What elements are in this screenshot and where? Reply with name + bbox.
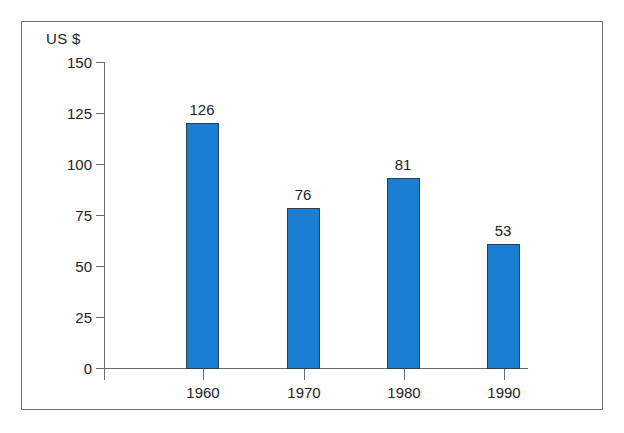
bar-1970[interactable] (287, 208, 320, 369)
x-tick-mark (404, 369, 405, 380)
y-tick-label: 125 (40, 106, 92, 121)
bar-value-label: 126 (167, 102, 237, 118)
bar-value-label: 53 (468, 223, 538, 239)
y-tick-label: 100 (40, 157, 92, 172)
y-axis-title: US $ (46, 30, 81, 47)
x-tick-label: 1970 (269, 385, 339, 401)
x-tick-mark (304, 369, 305, 380)
y-tick-label: 75 (40, 208, 92, 223)
x-tick-mark (203, 369, 204, 380)
bar-1980[interactable] (387, 178, 420, 369)
bar-value-label: 81 (368, 157, 438, 173)
y-tick-label: 0 (40, 361, 92, 376)
x-tick-mark (504, 369, 505, 380)
plot-area: US $ 150 125 100 75 50 25 0 126 76 81 53… (0, 0, 624, 433)
bar-1990[interactable] (487, 244, 520, 369)
y-tick-label: 150 (40, 55, 92, 70)
y-tick-mark (96, 368, 105, 369)
y-tick-label: 50 (40, 259, 92, 274)
y-tick-label: 25 (40, 310, 92, 325)
x-tick-label: 1960 (168, 385, 238, 401)
y-tick-mark (96, 164, 105, 165)
figure: US $ 150 125 100 75 50 25 0 126 76 81 53… (0, 0, 624, 433)
x-tick-label: 1980 (369, 385, 439, 401)
y-axis-line (104, 62, 105, 380)
y-tick-mark (96, 215, 105, 216)
y-tick-mark (96, 317, 105, 318)
y-tick-mark (96, 62, 105, 63)
bar-1960[interactable] (186, 123, 219, 369)
x-tick-label: 1990 (469, 385, 539, 401)
y-tick-mark (96, 266, 105, 267)
y-tick-mark (96, 113, 105, 114)
bar-value-label: 76 (268, 187, 338, 203)
